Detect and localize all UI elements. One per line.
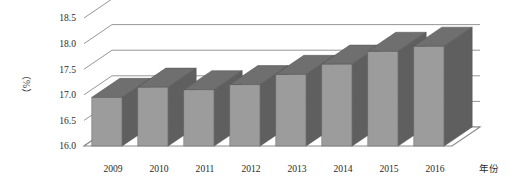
x-axis-title: 年份 — [479, 163, 499, 174]
x-tick-label: 2012 — [241, 163, 260, 174]
x-tick-label: 2010 — [149, 163, 168, 174]
bars-group — [92, 27, 472, 146]
bar-front-face — [92, 97, 122, 146]
y-tick-label: 17.5 — [59, 64, 76, 75]
bar-front-face — [138, 87, 168, 146]
x-tick-label: 2009 — [103, 163, 122, 174]
y-tick-label: 16.0 — [59, 140, 76, 151]
x-tick-label: 2014 — [333, 163, 352, 174]
bar-front-face — [230, 85, 260, 146]
x-tick-label: 2015 — [379, 163, 398, 174]
bar-front-face — [184, 90, 214, 146]
y-axis-tick-labels: 18.518.017.517.016.516.0 — [59, 12, 76, 151]
x-axis-tick-labels: 20092010201120122013201420152016 — [103, 163, 444, 174]
x-tick-label: 2016 — [425, 163, 444, 174]
y-tick-label: 17.0 — [59, 89, 76, 100]
bar-side-face — [444, 27, 472, 146]
bar-front-face — [276, 74, 306, 146]
bar-front-face — [368, 51, 398, 146]
gridline-18.5 — [84, 0, 480, 18]
bar-2016 — [414, 27, 472, 146]
x-tick-label: 2013 — [287, 163, 306, 174]
y-tick-label: 18.5 — [59, 12, 76, 23]
x-tick-label: 2011 — [196, 163, 215, 174]
bar-front-face — [322, 64, 352, 146]
bar-chart-3d: 18.518.017.517.016.516.0 200920102011201… — [0, 0, 516, 192]
y-tick-label: 18.0 — [59, 38, 76, 49]
chart-container: 18.518.017.517.016.516.0 200920102011201… — [0, 0, 516, 192]
y-tick-label: 16.5 — [59, 115, 76, 126]
bar-front-face — [414, 46, 444, 146]
y-axis-title: （%） — [21, 70, 32, 98]
